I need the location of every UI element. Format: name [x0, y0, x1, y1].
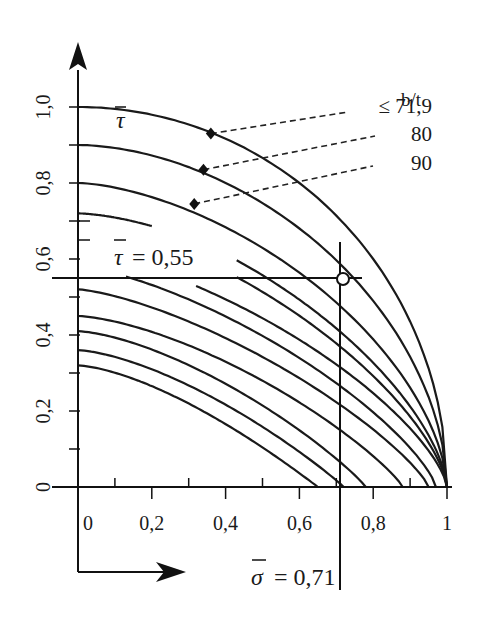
x-tick-label: 0,4: [213, 512, 238, 534]
tick-group: [69, 107, 447, 499]
curve-13: [78, 365, 318, 487]
tau-annotation-value: = 0,55: [132, 244, 194, 270]
legend-entry-2: 80: [411, 122, 432, 146]
x-tick-label: 0,2: [139, 512, 164, 534]
interaction-chart: τ b/t ≤ 71,9 80 90 τ = 0,55 σ = 0,71 00,…: [0, 0, 477, 627]
y-tick-label: 0,8: [32, 171, 54, 196]
y-tick-label: 0,6: [32, 247, 54, 272]
y-tick-label: 0,4: [32, 323, 54, 348]
legend-entry-1: ≤ 71,9: [378, 94, 432, 118]
x-tick-label: 0,8: [361, 512, 386, 534]
curve-2: [78, 145, 447, 487]
legend-leader-line: [211, 112, 348, 134]
x-tick-label: 0: [83, 512, 93, 534]
tau-annotation-symbol: τ: [114, 244, 124, 270]
diamond-marker-icon: [206, 128, 216, 140]
curve-group: [78, 107, 447, 487]
sigma-annotation-symbol: σ: [251, 564, 264, 590]
sigma-annotation-value: = 0,71: [274, 564, 336, 590]
operating-point-marker: [337, 273, 349, 285]
diamond-marker-icon: [189, 198, 199, 210]
y-tick-label: 0: [32, 482, 54, 492]
legend-entry-3: 90: [411, 151, 432, 175]
y-tick-label: 0,2: [32, 399, 54, 424]
y-axis-label: τ: [116, 107, 126, 133]
y-axis-arrow-icon: [69, 42, 87, 70]
x-tick-label: 1: [442, 512, 452, 534]
x-tick-label: 0,6: [287, 512, 312, 534]
curve-4: [78, 213, 152, 226]
curve-12: [78, 350, 344, 487]
legend-leaders: [194, 112, 375, 204]
tick-labels: 00,20,40,60,8100,20,40,60,81,0: [32, 95, 452, 535]
y-tick-label: 1,0: [32, 95, 54, 120]
